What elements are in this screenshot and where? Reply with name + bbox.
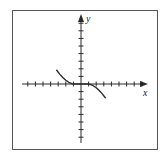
x-axis-label: x	[142, 87, 148, 98]
y-axis	[78, 14, 84, 143]
y-axis-arrow-icon	[78, 14, 84, 22]
plot-frame	[13, 11, 158, 150]
function-graph: x y	[0, 0, 160, 156]
y-axis-label: y	[85, 13, 91, 24]
